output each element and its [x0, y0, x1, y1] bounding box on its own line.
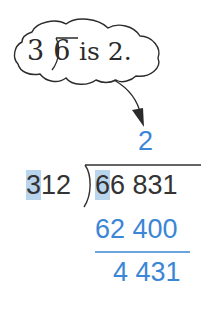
divisor-highlight-digit: 3 — [26, 170, 41, 200]
remainder-value: 4 431 — [113, 257, 181, 287]
bubble-divisor: 3 — [27, 35, 44, 66]
divisor-rest: 12 — [41, 170, 71, 200]
dividend-rest: 6 831 — [110, 170, 178, 200]
dividend: 66 831 — [95, 170, 178, 200]
hint-bubble-text: 36 is 2. — [27, 34, 132, 69]
product-value: 62 400 — [95, 214, 178, 244]
dividend-highlight-digit: 6 — [95, 170, 110, 200]
arrow-head-icon — [132, 108, 144, 127]
divisor: 312 — [26, 170, 71, 200]
quotient-digit: 2 — [138, 126, 153, 156]
bubble-dividend: 6 — [53, 35, 70, 66]
bubble-result-text: is 2. — [79, 37, 132, 66]
